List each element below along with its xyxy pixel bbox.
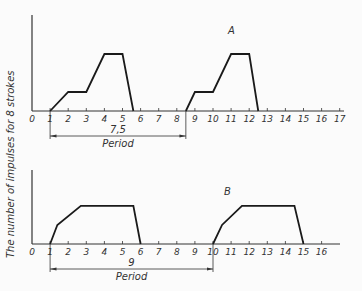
impulse-curve — [186, 54, 258, 111]
x-tick-label: 0 — [29, 247, 35, 257]
x-tick-label: 14 — [280, 114, 292, 124]
x-tick-label: 5 — [120, 114, 126, 124]
panel-b: 012345678910111213141516B9Period — [29, 170, 340, 282]
x-tick-label: 13 — [262, 114, 274, 124]
impulse-curve — [213, 206, 304, 244]
impulse-curve — [50, 54, 133, 111]
x-tick-label: 12 — [243, 114, 255, 124]
impulse-diagram: 01234567891011121314151617A7,5Period 012… — [0, 0, 362, 291]
period-label: Period — [102, 138, 134, 149]
x-tick-label: 6 — [138, 114, 144, 124]
x-tick-label: 9 — [192, 247, 198, 257]
x-tick-label: 0 — [29, 114, 35, 124]
x-tick-label: 9 — [192, 114, 198, 124]
impulse-curve — [50, 206, 141, 244]
period-value: 9 — [128, 257, 134, 268]
diagram-canvas: 01234567891011121314151617A7,5Period 012… — [0, 0, 362, 291]
x-tick-label: 13 — [262, 247, 274, 257]
y-axis-label: The number of impulses for 8 strokes — [5, 70, 16, 258]
period-label: Period — [116, 271, 148, 282]
x-tick-label: 5 — [120, 247, 126, 257]
x-tick-label: 3 — [83, 247, 89, 257]
x-tick-label: 15 — [298, 114, 310, 124]
x-tick-label: 2 — [65, 247, 71, 257]
x-tick-label: 12 — [243, 247, 255, 257]
x-tick-label: 2 — [65, 114, 71, 124]
x-tick-label: 15 — [298, 247, 310, 257]
x-tick-label: 4 — [102, 247, 108, 257]
x-tick-label: 10 — [207, 114, 219, 124]
x-tick-label: 11 — [225, 114, 236, 124]
x-tick-label: 4 — [102, 114, 108, 124]
x-tick-label: 14 — [280, 247, 292, 257]
x-tick-label: 16 — [316, 247, 328, 257]
x-tick-label: 8 — [174, 114, 180, 124]
x-tick-label: 16 — [316, 114, 328, 124]
x-tick-label: 7 — [156, 247, 162, 257]
x-tick-label: 11 — [225, 247, 236, 257]
period-value: 7,5 — [110, 124, 126, 135]
x-tick-label: 6 — [138, 247, 144, 257]
x-tick-label: 3 — [83, 114, 89, 124]
panel-a: 01234567891011121314151617A7,5Period — [29, 15, 346, 149]
panel-label: B — [224, 186, 231, 197]
x-tick-label: 7 — [156, 114, 162, 124]
panel-label: A — [227, 25, 235, 36]
x-tick-label: 8 — [174, 247, 180, 257]
x-tick-label: 17 — [334, 114, 346, 124]
